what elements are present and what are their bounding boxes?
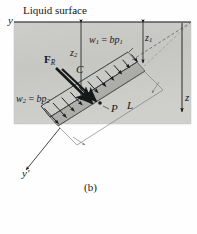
dimension-z1-label: z1 [145,33,152,44]
axis-y-prime-label: y' [22,168,29,179]
dimension-L-label: L [127,100,133,111]
point-C-label: C [76,64,83,75]
pressure-top-label: w1 = bp1 [89,35,123,46]
axis-y-label: y [8,15,13,26]
point-P-label: P [111,103,118,114]
axis-z-label: z [185,92,189,103]
resultant-force-label: FR [44,54,55,67]
liquid-surface-label: Liquid surface [23,5,87,16]
pressure-bottom-label: w2 = bp2 [16,94,50,105]
figure-caption: (b) [84,182,97,193]
axis-y-prime [26,128,60,170]
dimension-z2-label: z2 [70,48,77,59]
